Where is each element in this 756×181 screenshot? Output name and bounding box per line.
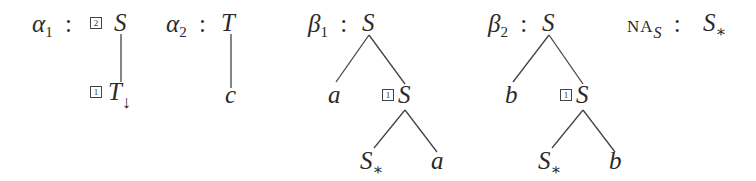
beta1-sep: : bbox=[340, 10, 347, 37]
beta1-index: 1 bbox=[320, 24, 328, 40]
beta1-name: β bbox=[308, 10, 320, 37]
foot-star-icon: ∗ bbox=[716, 23, 727, 40]
beta2-foot: S∗ bbox=[538, 148, 561, 178]
beta2-foot-label: S bbox=[538, 147, 551, 174]
alpha1-child-label: T bbox=[108, 78, 122, 105]
beta2-root: S bbox=[542, 10, 555, 35]
na-value-label: S bbox=[703, 9, 716, 36]
beta1-foot: S∗ bbox=[360, 148, 383, 178]
beta2-edge-rright bbox=[583, 110, 615, 152]
alpha2-sep: : bbox=[199, 10, 206, 37]
alpha1-label: α1 : bbox=[32, 11, 72, 40]
beta1-rright: a bbox=[431, 148, 444, 173]
beta2-right: S bbox=[576, 82, 589, 107]
beta1-right: S bbox=[398, 82, 411, 107]
beta2-label: β2 : bbox=[488, 11, 527, 40]
foot-star-icon: ∗ bbox=[373, 161, 384, 178]
alpha2-name: α bbox=[166, 10, 179, 37]
na-sub: S bbox=[654, 24, 662, 41]
beta1-edge-rright bbox=[405, 110, 437, 152]
alpha1-name: α bbox=[32, 10, 45, 37]
alpha1-child-address: 1 bbox=[90, 86, 102, 98]
beta1-left: a bbox=[328, 82, 341, 107]
alpha2-child: c bbox=[225, 82, 236, 107]
foot-arrow-icon: ↓ bbox=[122, 92, 131, 112]
beta2-edge-rleft bbox=[552, 110, 583, 148]
alpha2-label: α2 : bbox=[166, 11, 206, 40]
beta1-foot-label: S bbox=[360, 147, 373, 174]
beta2-left: b bbox=[505, 82, 518, 107]
beta2-sep: : bbox=[520, 10, 527, 37]
alpha1-root: S bbox=[114, 10, 127, 35]
beta1-edge-right bbox=[369, 35, 405, 84]
beta2-edge-left bbox=[513, 35, 549, 82]
alpha1-root-address: 2 bbox=[90, 17, 102, 29]
beta1-edge-rleft bbox=[374, 110, 405, 148]
na-label: NAS : bbox=[627, 11, 681, 41]
alpha2-root: T bbox=[221, 10, 235, 35]
beta2-edge-right bbox=[549, 35, 583, 84]
alpha2-index: 2 bbox=[179, 24, 187, 40]
na-sep: : bbox=[674, 10, 681, 37]
beta2-right-address: 1 bbox=[560, 89, 572, 101]
alpha1-index: 1 bbox=[45, 24, 53, 40]
beta1-root: S bbox=[362, 10, 375, 35]
na-value: S∗ bbox=[703, 10, 726, 40]
beta1-right-address: 1 bbox=[382, 89, 394, 101]
foot-star-icon: ∗ bbox=[551, 161, 562, 178]
na-name: NA bbox=[627, 17, 654, 36]
alpha1-child: T↓ bbox=[108, 79, 131, 111]
beta2-rright: b bbox=[609, 148, 622, 173]
beta1-label: β1 : bbox=[308, 11, 347, 40]
beta1-edge-left bbox=[336, 35, 369, 82]
alpha1-sep: : bbox=[65, 10, 72, 37]
beta2-name: β bbox=[488, 10, 500, 37]
beta2-index: 2 bbox=[500, 24, 508, 40]
